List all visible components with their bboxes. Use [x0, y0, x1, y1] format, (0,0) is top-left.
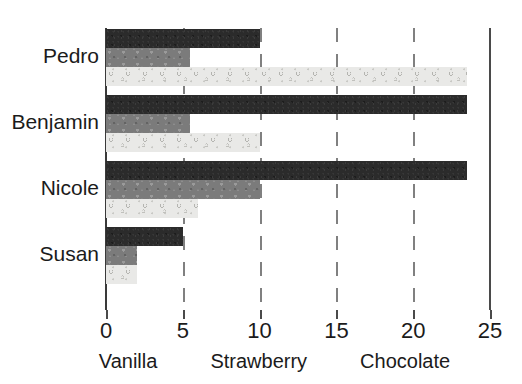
bar-row — [106, 48, 490, 67]
legend-item-chocolate[interactable]: Chocolate — [333, 350, 450, 373]
bar-group-pedro — [106, 29, 490, 86]
x-tick-label-15: 15 — [324, 318, 348, 344]
bar-row — [106, 29, 490, 48]
bar-susan-chocolate — [106, 227, 183, 246]
bar-row — [106, 180, 490, 199]
x-tick-label-5: 5 — [177, 318, 189, 344]
bar-group-nicole — [106, 161, 490, 218]
legend-swatch-strawberry-icon — [183, 353, 202, 370]
bar-row — [106, 161, 490, 180]
bar-pedro-chocolate — [106, 29, 260, 48]
x-tick-label-20: 20 — [401, 318, 425, 344]
x-tick-label-25: 25 — [478, 318, 502, 344]
bar-group-susan — [106, 227, 490, 284]
bar-nicole-chocolate — [106, 161, 467, 180]
bar-row — [106, 133, 490, 152]
bar-benjamin-strawberry — [106, 114, 190, 133]
legend-label: Strawberry — [210, 350, 307, 373]
category-label-nicole: Nicole — [0, 176, 99, 200]
bar-row — [106, 246, 490, 265]
category-label-benjamin: Benjamin — [0, 110, 99, 134]
category-label-pedro: Pedro — [0, 44, 99, 68]
bar-susan-strawberry — [106, 246, 137, 265]
legend-item-vanilla[interactable]: Vanilla — [72, 350, 158, 373]
bar-row — [106, 114, 490, 133]
bar-benjamin-chocolate — [106, 95, 467, 114]
bar-susan-vanilla — [106, 265, 137, 284]
x-tick-label-0: 0 — [100, 318, 112, 344]
bar-benjamin-vanilla — [106, 133, 260, 152]
legend-swatch-chocolate-icon — [333, 353, 352, 370]
bar-row — [106, 67, 490, 86]
legend-item-strawberry[interactable]: Strawberry — [183, 350, 307, 373]
legend-label: Vanilla — [99, 350, 158, 373]
plot-area — [106, 28, 490, 310]
bar-chart: PedroBenjaminNicoleSusan 0510152025 Vani… — [0, 0, 522, 384]
bar-row — [106, 199, 490, 218]
legend-label: Chocolate — [360, 350, 450, 373]
category-label-susan: Susan — [0, 242, 99, 266]
bar-row — [106, 95, 490, 114]
bar-group-benjamin — [106, 95, 490, 152]
bar-nicole-strawberry — [106, 180, 260, 199]
legend-swatch-vanilla-icon — [72, 353, 91, 370]
x-tick-label-10: 10 — [247, 318, 271, 344]
bar-row — [106, 265, 490, 284]
bar-pedro-vanilla — [106, 67, 467, 86]
chart-legend: VanillaStrawberryChocolate — [0, 350, 522, 373]
bar-row — [106, 227, 490, 246]
bar-pedro-strawberry — [106, 48, 190, 67]
bar-nicole-vanilla — [106, 199, 198, 218]
